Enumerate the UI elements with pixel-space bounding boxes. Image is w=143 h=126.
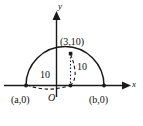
semicircle-arc [26,47,104,86]
y-axis [53,11,61,97]
y-axis-label: y [58,2,62,11]
dot-right-endpoint [102,84,106,88]
y-axis-arrowhead [53,11,61,20]
x-axis [4,82,131,90]
figure-canvas [0,0,143,126]
geometry-figure: y x O (3,10) (a,0) (b,0) 10 10 [0,0,143,126]
x-axis-arrowhead [122,82,131,90]
right-endpoint-label: (b,0) [89,95,108,105]
left-endpoint-label-text: (a,0) [11,94,30,105]
x-axis-label: x [132,80,136,89]
radius-left-label: 10 [40,70,50,80]
dot-foot-point [69,84,73,88]
radius-right-label: 10 [77,62,87,72]
right-endpoint-label-text: (b,0) [89,94,108,105]
dot-apex-point [69,52,73,56]
radius-right-dashed [70,54,75,86]
apex-point-label: (3,10) [60,37,84,47]
dot-left-endpoint [24,84,28,88]
origin-label: O [48,93,55,103]
left-endpoint-label: (a,0) [11,95,30,105]
